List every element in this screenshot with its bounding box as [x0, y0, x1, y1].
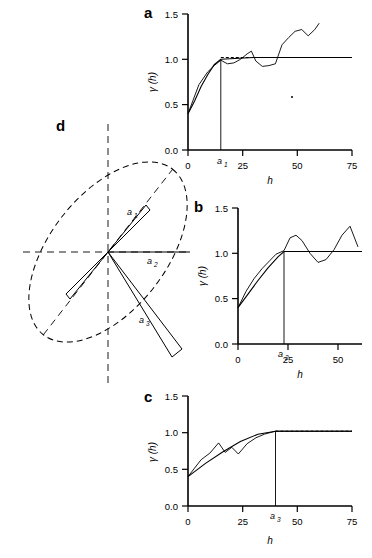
- panel-c-xtick-1: 25: [237, 516, 248, 527]
- range-a3-cap: [172, 349, 182, 357]
- panel-c-range-sub: 3: [277, 516, 281, 523]
- range-a3-radius: [108, 252, 172, 357]
- range-a3-sub: 3: [146, 320, 150, 327]
- panel-c-ytick-0: 0.0: [165, 501, 178, 512]
- panel-a-ytick-3: 1.5: [165, 9, 178, 20]
- panel-b-xtick-2: 50: [333, 354, 344, 365]
- panel-c-ytick-3: 1.5: [165, 391, 178, 402]
- panel-c-xtick-3: 75: [347, 516, 358, 527]
- range-a3-label: a: [139, 315, 144, 325]
- range-a1-sub: 1: [134, 212, 138, 219]
- panel-a-ytick-1: 0.5: [165, 99, 178, 110]
- range-a1-mirror: [70, 252, 108, 299]
- panel-a-letter: a: [144, 4, 152, 21]
- panel-b-xlabel: h: [297, 369, 303, 380]
- panel-c-ytick-1: 0.5: [165, 464, 178, 475]
- range-a1-label: a: [127, 207, 132, 217]
- range-a2-label: a: [147, 256, 152, 266]
- range-a1-mirror-edge: [66, 252, 108, 294]
- figure-canvas: a 1.5 1.0 0.5 0.0 0 25 50 75 h: [0, 0, 372, 558]
- panel-b-range-label: a: [278, 349, 283, 359]
- panel-a-xtick-2: 50: [292, 160, 303, 171]
- range-a1-cap: [146, 205, 150, 210]
- panel-a-ytick-2: 1.0: [165, 54, 178, 65]
- panel-b-range-sub: 2: [284, 354, 289, 361]
- panel-c: c 1.5 1.0 0.5 0.0 0 25 50 75 h γ (h): [140, 388, 372, 558]
- panel-c-ytick-2: 1.0: [165, 427, 178, 438]
- panel-c-xtick-0: 0: [185, 516, 190, 527]
- panel-a-xtick-3: 75: [347, 160, 358, 171]
- panel-a-xtick-1: 25: [237, 160, 248, 171]
- speck-mark: [291, 96, 293, 98]
- range-a3-radius-edge: [108, 252, 182, 349]
- panel-c-range-label: a: [270, 511, 275, 521]
- panel-c-xlabel: h: [267, 535, 273, 546]
- range-a1-mirror-cap: [66, 294, 70, 299]
- panel-a-xlabel: h: [267, 175, 273, 186]
- panel-d-diagram: a 1 a 2 a 3: [0, 112, 225, 390]
- panel-c-plot: 1.5 1.0 0.5 0.0 0 25 50 75 h γ (h) a 3: [140, 388, 372, 558]
- panel-c-xtick-2: 50: [292, 516, 303, 527]
- panel-a-ylabel: γ (h): [147, 72, 158, 92]
- range-a2-sub: 2: [153, 261, 158, 268]
- panel-d-letter: d: [56, 117, 65, 134]
- panel-c-letter: c: [144, 388, 152, 405]
- panel-b-xtick-0: 0: [235, 354, 240, 365]
- panel-d: d a 1 a: [0, 112, 225, 390]
- panel-c-ylabel: γ (h): [147, 442, 158, 462]
